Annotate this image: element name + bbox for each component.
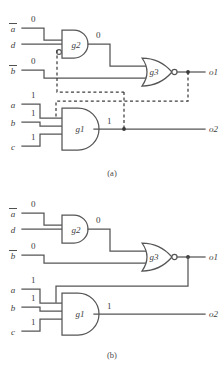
caption-panel-b: (b) [0,350,224,360]
wire-c [22,319,62,331]
label-output-o2: o2 [209,124,219,134]
value-g1-output: 1 [107,301,112,311]
label-output-o1: o1 [209,67,218,77]
value-b: 1 [31,108,36,118]
panel-a-schematic: g2 g3 g1 0 0 [0,0,224,160]
label-input-b: b [11,118,16,128]
panel-b-schematic: g2 g3 g1 0 0 0 1 1 1 1 [0,185,224,345]
gate-g3-output-bubble [172,69,177,74]
panel-a: g2 g3 g1 0 0 [0,0,224,185]
label-input-a: a [11,100,16,110]
gate-g3-label: g3 [150,252,160,262]
wire-bbar [22,70,146,78]
wire-g2-out-to-g3 [88,229,146,251]
label-input-bbar: b [11,251,16,261]
gate-g2-label: g2 [72,225,82,235]
value-bbar: 0 [31,241,36,251]
value-a: 1 [31,275,36,285]
panel-b: g2 g3 g1 0 0 0 1 1 1 1 [0,185,224,369]
wire-b [22,122,62,126]
label-input-b: b [11,303,16,313]
value-b: 1 [31,293,36,303]
gate-g3-label: g3 [150,67,160,77]
logic-circuit-figure: g2 g3 g1 0 0 [0,0,224,369]
label-input-abar: a [11,209,16,219]
value-g1-output: 1 [107,116,112,126]
label-input-d: d [11,225,16,235]
label-input-bbar: b [11,66,16,76]
wire-c [22,134,62,146]
gate-g1-label: g1 [76,124,85,134]
value-bbar: 0 [31,56,36,66]
wire-abar [22,28,62,40]
gate-g2-label: g2 [72,40,82,50]
label-input-c: c [11,142,15,152]
wire-b [22,307,62,311]
value-c: 1 [31,132,36,142]
value-g2-output: 0 [96,30,101,40]
label-output-o2: o2 [209,309,219,319]
wire-g2-out-to-g3 [88,44,146,66]
caption-panel-a: (a) [0,168,224,178]
value-g2-output: 0 [96,215,101,225]
value-abar: 0 [31,199,36,209]
label-input-a: a [11,285,16,295]
wire-bbar [22,255,146,263]
value-a: 1 [31,90,36,100]
gate-g3-output-bubble [172,254,177,259]
label-input-abar: a [11,24,16,34]
label-output-o1: o1 [209,252,218,262]
value-c: 1 [31,317,36,327]
label-input-d: d [11,40,16,50]
wire-abar [22,213,62,225]
value-abar: 0 [31,14,36,24]
label-input-c: c [11,327,15,337]
gate-g1-label: g1 [76,309,85,319]
